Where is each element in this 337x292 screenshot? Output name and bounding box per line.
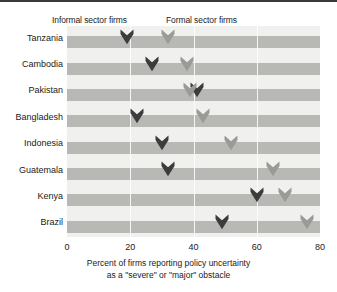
category-label: Bangladesh bbox=[0, 112, 63, 123]
data-marker bbox=[250, 187, 264, 203]
x-axis-title-line1: Percent of firms reporting policy uncert… bbox=[0, 258, 337, 270]
data-marker bbox=[266, 161, 280, 177]
category-label: Guatemala bbox=[0, 165, 63, 176]
category-label: Pakistan bbox=[0, 85, 63, 96]
x-tick-label: 20 bbox=[125, 242, 135, 253]
x-tick-label: 60 bbox=[252, 242, 262, 253]
top-rule bbox=[0, 0, 337, 2]
data-marker bbox=[215, 214, 229, 230]
gridline bbox=[130, 26, 131, 237]
chart-figure: Informal sector firms Formal sector firm… bbox=[0, 0, 337, 292]
x-axis-title-line2: as a "severe" or "major" obstacle bbox=[0, 270, 337, 282]
data-marker bbox=[120, 29, 134, 45]
category-label: Cambodia bbox=[0, 59, 63, 70]
data-marker bbox=[161, 161, 175, 177]
plot-area bbox=[67, 26, 320, 237]
gridline bbox=[320, 26, 321, 237]
data-marker bbox=[145, 56, 159, 72]
data-marker bbox=[278, 187, 292, 203]
x-tick-label: 80 bbox=[315, 242, 325, 253]
category-label: Brazil bbox=[0, 217, 63, 228]
legend-label-informal: Informal sector firms bbox=[52, 15, 127, 26]
data-marker bbox=[161, 29, 175, 45]
x-tick-label: 40 bbox=[188, 242, 198, 253]
data-marker bbox=[130, 108, 144, 124]
data-marker bbox=[300, 214, 314, 230]
data-marker bbox=[183, 82, 197, 98]
data-marker bbox=[196, 108, 210, 124]
legend-label-formal: Formal sector firms bbox=[166, 15, 237, 26]
x-axis-title: Percent of firms reporting policy uncert… bbox=[0, 258, 337, 281]
x-axis: 020406080 bbox=[67, 237, 320, 253]
category-label: Indonesia bbox=[0, 138, 63, 149]
gridline bbox=[257, 26, 258, 237]
x-tick-label: 0 bbox=[64, 242, 69, 253]
data-marker bbox=[224, 135, 238, 151]
category-label: Tanzania bbox=[0, 33, 63, 44]
data-marker bbox=[180, 56, 194, 72]
category-label: Kenya bbox=[0, 191, 63, 202]
data-marker bbox=[155, 135, 169, 151]
